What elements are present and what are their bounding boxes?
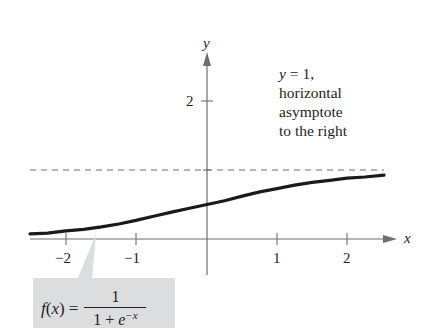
asymptote-annotation: y = 1, horizontal asymptote to the right <box>279 64 347 140</box>
x-tick-label-1: 1 <box>273 251 281 266</box>
formula-denominator: 1 + e−x <box>93 308 137 329</box>
formula: f(x) = 1 1 + e−x <box>41 288 146 330</box>
formula-lhs: f(x) = <box>41 299 78 319</box>
y-axis-label: y <box>203 36 210 51</box>
y-tick-label-2: 2 <box>186 94 194 109</box>
formula-fraction: 1 1 + e−x <box>84 288 146 330</box>
annotation-line-4: to the right <box>279 121 347 140</box>
x-tick-label-neg1: −1 <box>124 251 140 266</box>
annotation-line-3: asymptote <box>279 102 347 121</box>
formula-numerator: 1 <box>111 288 119 307</box>
formula-exponent: −x <box>125 309 137 321</box>
formula-box: f(x) = 1 1 + e−x <box>33 278 175 328</box>
annotation-line-1: y = 1, <box>279 64 347 83</box>
x-tick-label-neg2: −2 <box>55 251 71 266</box>
x-axis-label: x <box>404 231 411 246</box>
y-axis-arrow-icon <box>203 52 211 66</box>
x-axis-arrow-icon <box>383 235 397 243</box>
annotation-line-2: horizontal <box>279 83 347 102</box>
x-tick-label-2: 2 <box>343 251 351 266</box>
formula-pointer <box>78 234 96 278</box>
